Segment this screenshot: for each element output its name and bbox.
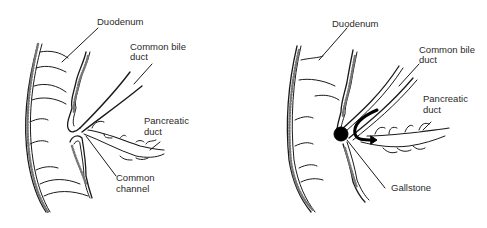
- panel-gallstone-obstruction: Duodenum Common bile duct Pancreatic duc…: [243, 0, 487, 228]
- common-channel-leader: [86, 136, 116, 176]
- duodenum-wall-icon: [26, 44, 88, 212]
- label-duodenum: Duodenum: [97, 17, 143, 27]
- label-common-channel-line2: channel: [116, 184, 149, 194]
- papilla-upper-icon: [67, 52, 90, 132]
- duodenum-leader: [319, 28, 347, 60]
- label-pancreatic-duct-line1: Pancreatic: [144, 116, 189, 126]
- duodenum-leader: [62, 28, 98, 62]
- bile-duct-leader: [134, 64, 152, 84]
- label-common-channel-line1: Common: [116, 173, 155, 183]
- label-gallstone: Gallstone: [391, 183, 431, 193]
- label-common-bile-duct-line2: duct: [130, 52, 148, 62]
- label-common-bile-duct-line2: duct: [419, 55, 437, 65]
- gallstone-anatomy-drawing: [243, 0, 487, 228]
- label-pancreatic-duct-line2: duct: [423, 105, 441, 115]
- gallstone-icon: [334, 127, 348, 141]
- label-duodenum: Duodenum: [332, 19, 378, 29]
- duodenum-wall-icon: [287, 46, 339, 212]
- panel-normal-anatomy: Duodenum Common bile duct Pancreatic duc…: [0, 0, 243, 228]
- papilla-lower-icon: [70, 136, 92, 198]
- common-bile-duct-icon: [80, 72, 142, 132]
- label-pancreatic-duct-line1: Pancreatic: [423, 94, 468, 104]
- label-pancreatic-duct-line2: duct: [144, 127, 162, 137]
